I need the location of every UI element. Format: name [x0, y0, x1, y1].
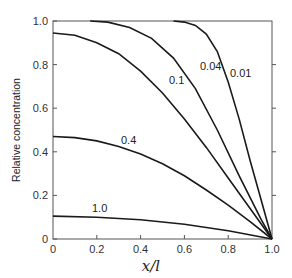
x-tick-0.2: 0.2 — [89, 243, 104, 255]
label-1.0: 1.0 — [92, 202, 107, 214]
y-tick-0.2: 0.2 — [33, 189, 48, 201]
y-tick-0.6: 0.6 — [33, 102, 48, 114]
y-tick-labels: 0 0.2 0.4 0.6 0.8 1.0 — [33, 15, 48, 245]
y-tick-0: 0 — [42, 233, 48, 245]
curve-labels: 0.01 0.04 0.1 0.4 1.0 — [92, 60, 251, 214]
y-axis-label: Relative concentration — [10, 78, 22, 182]
curve-0.01 — [174, 21, 273, 239]
x-tick-0: 0 — [50, 243, 56, 255]
label-0.1: 0.1 — [169, 74, 184, 86]
x-tick-0.6: 0.6 — [177, 243, 192, 255]
label-0.04: 0.04 — [200, 60, 221, 72]
y-tick-0.4: 0.4 — [33, 146, 48, 158]
x-tick-1.0: 1.0 — [264, 243, 279, 255]
y-tick-1.0: 1.0 — [33, 15, 48, 27]
curve-0.1 — [53, 33, 272, 239]
label-0.4: 0.4 — [121, 134, 136, 146]
y-tick-0.8: 0.8 — [33, 59, 48, 71]
x-tick-labels: 0 0.2 0.4 0.6 0.8 1.0 — [50, 243, 280, 255]
curves — [53, 21, 272, 239]
x-ticks — [97, 235, 228, 239]
plot-frame — [53, 21, 272, 239]
curve-0.4 — [53, 137, 272, 240]
x-axis-label: x/l — [142, 257, 161, 275]
label-0.01: 0.01 — [230, 67, 251, 79]
x-tick-0.4: 0.4 — [133, 243, 148, 255]
concentration-chart: 0 0.2 0.4 0.6 0.8 1.0 0 0.2 0.4 0.6 0.8 … — [0, 0, 292, 278]
x-tick-0.8: 0.8 — [221, 243, 236, 255]
curve-1.0 — [53, 216, 272, 239]
